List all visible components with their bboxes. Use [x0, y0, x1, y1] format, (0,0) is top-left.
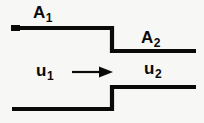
- upper-wall-path: [12, 28, 196, 51]
- pipe-contraction-figure: A1 A2 u1 u2: [0, 0, 204, 123]
- label-area-upstream-subscript: 1: [46, 11, 53, 25]
- label-velocity-upstream: u1: [36, 62, 53, 79]
- pipe-walls-drawing: [0, 0, 204, 123]
- upper-wall-left-tip: [11, 25, 20, 31]
- label-area-downstream-symbol: A: [141, 28, 153, 47]
- label-velocity-downstream-symbol: u: [144, 59, 154, 78]
- flow-arrow-head: [99, 67, 113, 78]
- label-velocity-downstream: u2: [144, 60, 161, 77]
- label-velocity-upstream-symbol: u: [36, 61, 46, 80]
- label-area-downstream-subscript: 2: [154, 36, 161, 50]
- label-area-upstream-symbol: A: [33, 3, 45, 22]
- label-velocity-upstream-subscript: 1: [47, 69, 54, 83]
- flow-direction-arrow: [72, 67, 113, 78]
- label-area-upstream: A1: [33, 4, 52, 21]
- label-velocity-downstream-subscript: 2: [155, 67, 162, 81]
- label-area-downstream: A2: [141, 29, 160, 46]
- lower-wall-path: [12, 87, 196, 109]
